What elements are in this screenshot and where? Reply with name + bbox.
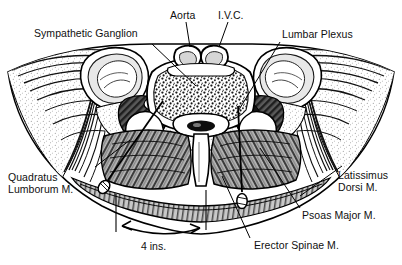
anatomical-figure: Sympathetic Ganglion Aorta I.V.C. Lumbar… <box>0 0 402 265</box>
label-aorta: Aorta <box>170 10 195 22</box>
label-quadratus-lumborum-line2: Lumborum M. <box>8 184 73 196</box>
label-psoas-major: Psoas Major M. <box>302 210 376 222</box>
scale-arrow-head-left <box>122 221 132 230</box>
needle-right-hub <box>237 194 247 209</box>
label-quadratus-lumborum-line1: Quadratus <box>8 172 57 184</box>
label-erector-spinae: Erector Spinae M. <box>254 240 339 252</box>
label-sympathetic-ganglion: Sympathetic Ganglion <box>34 28 138 40</box>
label-latissimus-dorsi-line1: Latissimus <box>338 170 388 182</box>
spinous-process <box>193 134 210 186</box>
prevertebral-fascia <box>167 64 234 77</box>
label-lumbar-plexus: Lumbar Plexus <box>282 29 353 41</box>
label-latissimus-dorsi-line2: Dorsi M. <box>338 182 377 194</box>
erector-spinae-muscle-right <box>211 130 301 189</box>
label-ivc: I.V.C. <box>218 10 244 22</box>
erector-spinae-muscle-left <box>101 130 191 189</box>
scale-label: 4 ins. <box>141 240 166 252</box>
